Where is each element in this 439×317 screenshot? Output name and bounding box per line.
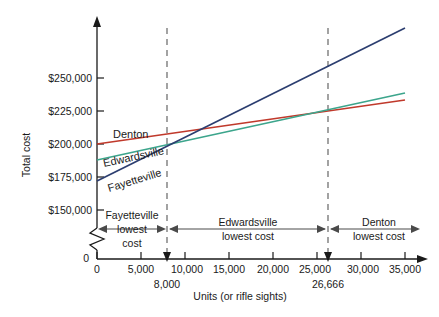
- bracket-label-fayetteville-line2: lowest: [117, 223, 147, 235]
- x-tick-label-25000: 25,000: [299, 263, 331, 275]
- bracket-label-fayetteville-line3: cost: [122, 237, 141, 249]
- indifference-marker-8000: [163, 252, 171, 262]
- bracket-label-edwardsville-line2: lowest cost: [222, 230, 274, 242]
- y-tick-label-200000: $200,000: [48, 138, 92, 150]
- y-axis-title: Total cost: [20, 133, 32, 177]
- cost-comparison-chart: $250,000 $225,000 $200,000 $175,000 $150…: [0, 0, 439, 317]
- bracket-label-fayetteville-line1: Fayetteville: [105, 209, 158, 221]
- series-label-edwardsville: Edwardsville: [102, 144, 165, 169]
- bracket-arrow-left-fayetteville: [98, 225, 107, 233]
- x-tick-label-20000: 20,000: [257, 263, 289, 275]
- indifference-lines-group: 8,000 26,666: [154, 28, 344, 290]
- range-bracket-denton: Denton lowest cost: [330, 216, 420, 242]
- y-tick-label-150000: $150,000: [48, 204, 92, 216]
- x-tick-label-5000: 5,000: [128, 263, 154, 275]
- y-axis-zero-label: 0: [83, 252, 89, 264]
- indifference-label-8000: 8,000: [154, 278, 180, 290]
- y-tick-label-225000: $225,000: [48, 105, 92, 117]
- y-axis-tick-labels: $250,000 $225,000 $200,000 $175,000 $150…: [48, 72, 92, 264]
- bracket-label-denton-line2: lowest cost: [353, 230, 405, 242]
- bracket-arrow-right-fayetteville: [157, 225, 166, 233]
- bracket-arrow-left-denton: [330, 225, 339, 233]
- x-axis-title: Units (or rifle sights): [193, 290, 286, 302]
- x-tick-label-0: 0: [94, 263, 100, 275]
- bracket-arrow-right-edwardsville: [317, 225, 326, 233]
- indifference-marker-26666: [324, 252, 332, 262]
- bracket-arrow-left-edwardsville: [169, 225, 178, 233]
- x-axis-ticks: [97, 252, 405, 259]
- y-tick-label-250000: $250,000: [48, 72, 92, 84]
- y-tick-label-175000: $175,000: [48, 171, 92, 183]
- indifference-label-26666: 26,666: [312, 278, 344, 290]
- bracket-label-edwardsville-line1: Edwardsville: [219, 216, 278, 228]
- y-axis-break-icon: [90, 228, 104, 250]
- range-bracket-edwardsville: Edwardsville lowest cost: [169, 216, 326, 242]
- x-tick-label-30000: 30,000: [347, 263, 379, 275]
- bracket-arrow-right-denton: [411, 225, 420, 233]
- x-tick-label-10000: 10,000: [171, 263, 203, 275]
- series-labels-group: Denton Edwardsville Fayetteville: [102, 128, 165, 194]
- range-bracket-fayetteville: Fayetteville lowest cost: [98, 209, 166, 249]
- y-axis-arrowhead: [93, 16, 101, 27]
- range-brackets-group: Fayetteville lowest cost Edwardsville lo…: [98, 209, 420, 249]
- chart-canvas: $250,000 $225,000 $200,000 $175,000 $150…: [0, 0, 439, 317]
- series-label-denton: Denton: [113, 128, 148, 140]
- x-axis-tick-labels: 0 5,000 10,000 15,000 20,000 25,000 30,0…: [94, 263, 421, 275]
- x-tick-label-35000: 35,000: [389, 263, 421, 275]
- bracket-label-denton-line1: Denton: [362, 216, 396, 228]
- x-axis-arrowhead: [417, 255, 428, 263]
- series-label-fayetteville: Fayetteville: [106, 166, 163, 194]
- x-tick-label-15000: 15,000: [213, 263, 245, 275]
